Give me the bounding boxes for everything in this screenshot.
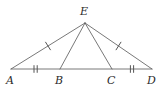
vertex-label-A: A	[6, 75, 14, 86]
vertex-label-C: C	[107, 75, 115, 86]
vertex-label-B: B	[55, 75, 63, 86]
vertex-label-D: D	[147, 75, 156, 86]
segment-EC	[85, 23, 112, 69]
tick-mark-segment-ED	[116, 42, 121, 50]
segment-EB	[60, 23, 85, 69]
tick-mark-segment-AE	[46, 42, 51, 50]
geometry-figure: A B C D E	[0, 0, 165, 90]
vertex-label-E: E	[80, 6, 88, 17]
